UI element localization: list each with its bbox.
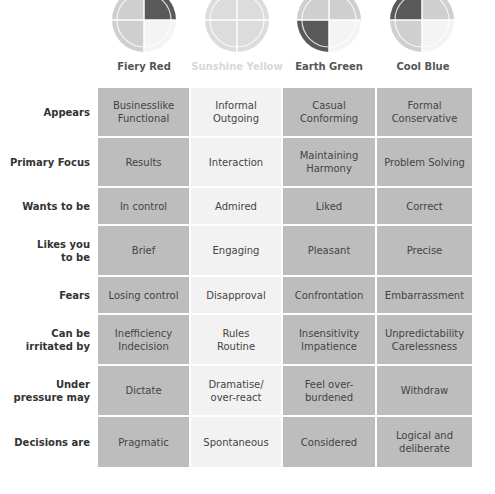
row-label-irritated-by: Can be irritated by (0, 315, 90, 366)
table-cell: Liked (283, 188, 377, 224)
column-header-earth-green: Earth Green (283, 60, 375, 74)
row-label-likes-you-to-be: Likes you to be (0, 226, 90, 277)
cool-blue-quadrant-icon (390, 0, 454, 52)
earth-green-quadrant-icon (297, 0, 361, 52)
table-cell: Confrontation (283, 277, 377, 313)
column-header-cool-blue: Cool Blue (377, 60, 469, 74)
table-cell: Logical and deliberate (377, 417, 472, 467)
table-cell: Engaging (191, 226, 283, 275)
table-cell: Inefficiency Indecision (98, 315, 191, 364)
table-row: In control Admired Liked Correct (98, 188, 472, 226)
table-cell: In control (98, 188, 191, 224)
table-cell: Pragmatic (98, 417, 191, 467)
table-cell: Considered (283, 417, 377, 467)
row-label-under-pressure: Under pressure may (0, 366, 90, 417)
table-cell: Embarrassment (377, 277, 472, 313)
table-cell: Maintaining Harmony (283, 138, 377, 186)
table-row: Dictate Dramatise/ over-react Feel over-… (98, 366, 472, 417)
column-header-sunshine-yellow: Sunshine Yellow (191, 60, 283, 74)
table-cell: Insensitivity Impatience (283, 315, 377, 364)
table-cell: Formal Conservative (377, 88, 472, 136)
table-cell: Unpredictability Carelessness (377, 315, 472, 364)
color-energy-icons (0, 0, 495, 56)
table-cell: Spontaneous (191, 417, 283, 467)
table-cell: Withdraw (377, 366, 472, 415)
row-label-primary-focus: Primary Focus (0, 138, 90, 188)
table-cell: Informal Outgoing (191, 88, 283, 136)
table-cell: Problem Solving (377, 138, 472, 186)
table-cell: Admired (191, 188, 283, 224)
column-header-fiery-red: Fiery Red (98, 60, 190, 74)
table-cell: Losing control (98, 277, 191, 313)
table-cell: Disapproval (191, 277, 283, 313)
table-cell: Precise (377, 226, 472, 275)
table-cell: Brief (98, 226, 191, 275)
sunshine-yellow-quadrant-icon (205, 0, 269, 52)
row-label-wants-to-be: Wants to be (0, 188, 90, 226)
table-cell: Correct (377, 188, 472, 224)
table-row: Inefficiency Indecision Rules Routine In… (98, 315, 472, 366)
table-row: Brief Engaging Pleasant Precise (98, 226, 472, 277)
table-cell: Results (98, 138, 191, 186)
table-cell: Businesslike Functional (98, 88, 191, 136)
table-row: Pragmatic Spontaneous Considered Logical… (98, 417, 472, 467)
row-label-appears: Appears (0, 88, 90, 138)
table-cell: Pleasant (283, 226, 377, 275)
table-cell: Casual Conforming (283, 88, 377, 136)
row-label-fears: Fears (0, 277, 90, 315)
fiery-red-quadrant-icon (112, 0, 176, 52)
personality-color-table: Businesslike Functional Informal Outgoin… (98, 88, 472, 467)
table-cell: Rules Routine (191, 315, 283, 364)
table-row: Losing control Disapproval Confrontation… (98, 277, 472, 315)
table-row: Businesslike Functional Informal Outgoin… (98, 88, 472, 138)
table-cell: Dictate (98, 366, 191, 415)
table-cell: Dramatise/ over-react (191, 366, 283, 415)
row-labels: Appears Primary Focus Wants to be Likes … (0, 88, 90, 467)
table-cell: Interaction (191, 138, 283, 186)
table-cell: Feel over- burdened (283, 366, 377, 415)
table-row: Results Interaction Maintaining Harmony … (98, 138, 472, 188)
row-label-decisions: Decisions are (0, 417, 90, 467)
